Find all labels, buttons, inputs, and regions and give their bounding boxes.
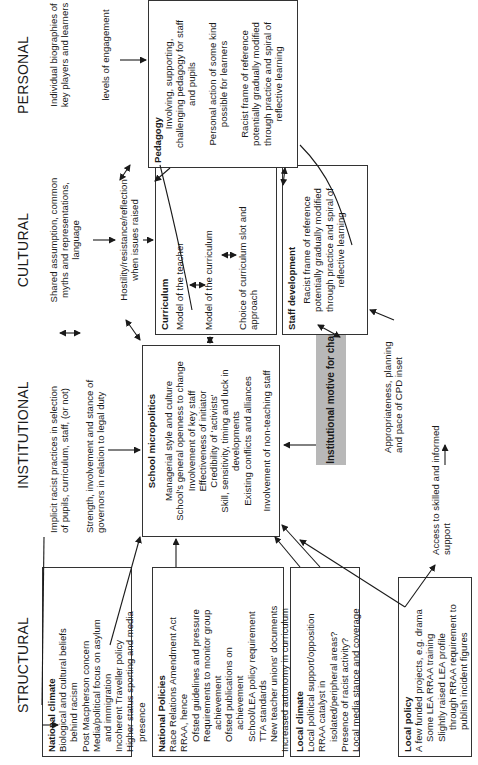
text-line: Hostility/resistance/reflection xyxy=(118,165,129,315)
text-line: Requirements to monitor group xyxy=(201,572,212,752)
text-line: Involvement of key staff xyxy=(186,350,197,532)
text-line: Post Macpherson concern xyxy=(80,572,91,752)
text-line: RRAA catalyst in xyxy=(316,572,327,752)
text-line: reflective learning xyxy=(335,170,346,330)
hostility-note: Hostility/resistance/reflection when iss… xyxy=(118,165,140,315)
local-policy-box: Local policy A few funded projects, e.g.… xyxy=(398,577,472,757)
text-line: developments xyxy=(230,350,241,532)
text-line: isolated/peripheral areas? xyxy=(328,572,339,752)
text-line: Local media stance and coverage xyxy=(350,572,361,752)
text-line: through practice and spiral of xyxy=(324,170,335,330)
heading-cultural: CULTURAL xyxy=(18,165,29,335)
governors-note: Strength, involvement and stance of gove… xyxy=(84,333,106,533)
diagram-canvas: STRUCTURAL INSTITUTIONAL CULTURAL PERSON… xyxy=(0,0,478,765)
national-policies-title: National Policies xyxy=(156,572,167,752)
text-line: Ofsted publications on xyxy=(223,572,234,752)
text-line: achievement xyxy=(234,572,245,752)
shared-assumptions-note: Shared assumption, common myths and repr… xyxy=(48,165,82,315)
engagement-note: levels of engagement xyxy=(100,0,111,115)
text-line: Access to skilled and informed xyxy=(430,385,441,555)
text-line: Higher status sporting and media xyxy=(124,572,135,752)
text-line: New teacher unions' documents xyxy=(268,572,279,752)
text-line: Strength, involvement and stance of xyxy=(84,333,95,533)
text-line: Implicit racist practices in selection xyxy=(48,333,59,533)
spacer xyxy=(253,350,261,532)
text-line: potentially gradually modified xyxy=(312,170,323,330)
staff-development-box: Staff development Racist frame of refere… xyxy=(282,165,368,335)
text-line: achievement xyxy=(212,572,223,752)
local-climate-box: Local climate Local political support/op… xyxy=(290,567,360,757)
text-line: Racist frame of reference xyxy=(301,170,312,330)
text-line: Appropriateness, planning xyxy=(382,293,393,453)
text-line: A few funded projects, e.g. drama xyxy=(413,582,424,752)
text-line: Choice of curriculum slot and xyxy=(237,170,248,330)
text-line: Biological and cultural beliefs xyxy=(57,572,68,752)
text-line: Involving, supporting, xyxy=(163,5,174,163)
school-micropolitics-title: School micropolitics xyxy=(146,350,157,532)
text-line: Some LEA RRAA training xyxy=(424,582,435,752)
text-line: Individual biographies of xyxy=(48,0,59,110)
text-line: reflective learning xyxy=(273,5,284,163)
text-line: TTA standards xyxy=(257,572,268,752)
support-access-note: Access to skilled and informed support xyxy=(430,385,452,555)
text-line: and immigration xyxy=(102,572,113,752)
text-line: Model of the teacher xyxy=(174,170,185,330)
text-line: language xyxy=(70,165,81,315)
local-climate-title: Local climate xyxy=(294,572,305,752)
national-climate-title: National climate xyxy=(46,572,57,752)
local-policy-title: Local policy xyxy=(402,582,413,752)
national-climate-box: National climate Biological and cultural… xyxy=(42,567,132,757)
heading-structural: STRUCTURAL xyxy=(18,575,29,755)
text-line: Incoherent Traveller policy xyxy=(113,572,124,752)
text-line: behind racism xyxy=(68,572,79,752)
text-line: School's general openness to change xyxy=(174,350,185,532)
text-line: myths and representations, xyxy=(59,165,70,315)
text-line: and pace of CPD inset xyxy=(393,293,404,453)
heading-institutional: INSTITUTIONAL xyxy=(18,345,29,525)
text-line: publish incident figures xyxy=(458,582,469,752)
school-micropolitics-box: School micropolitics Managerial style an… xyxy=(142,345,280,537)
text-line: when issues raised xyxy=(129,165,140,315)
text-line: Effectiveness of initiator xyxy=(197,350,208,532)
text-line: Presence of racist activity? xyxy=(339,572,350,752)
pedagogy-title: Pedagogy xyxy=(152,5,163,163)
text-line: Ofsted guidelines and pressure xyxy=(190,572,201,752)
biographies-note: Individual biographies of key players an… xyxy=(48,0,70,110)
text-line: through practice and spiral of xyxy=(262,5,273,163)
curriculum-box: Curriculum Model of the teacher Model of… xyxy=(155,165,277,335)
text-line: approach xyxy=(248,170,259,330)
text-line: presence xyxy=(136,572,147,752)
staff-development-title: Staff development xyxy=(286,170,297,330)
text-line: Skill, sensitivity, timing and luck in xyxy=(219,350,230,532)
implicit-practices-note: Implicit racist practices in selection o… xyxy=(48,333,70,533)
pedagogy-box: Pedagogy Involving, supporting, challeng… xyxy=(148,0,298,168)
text-line: Managerial style and culture xyxy=(163,350,174,532)
heading-personal: PERSONAL xyxy=(18,0,29,150)
curriculum-title: Curriculum xyxy=(159,170,170,330)
text-line: School/LEA policy requirement xyxy=(246,572,257,752)
text-line: challenging pedagogy for staff xyxy=(174,5,185,163)
text-line: Racist frame of reference xyxy=(239,5,250,163)
text-line: governors in relation to legal duty xyxy=(95,333,106,533)
text-line: Local political support/opposition xyxy=(305,572,316,752)
text-line: of pupils, curriculum, staff, (or not) xyxy=(59,333,70,533)
text-line: and pupils xyxy=(186,5,197,163)
text-line: Existing conflicts and alliances xyxy=(242,350,253,532)
cpd-inset-note: Appropriateness, planning and pace of CP… xyxy=(382,293,404,453)
text-line: Increased autonomy in curriculum xyxy=(279,572,290,752)
text-line: key players and learners xyxy=(59,0,70,110)
spacer xyxy=(197,5,207,163)
text-line: Credibility of 'activists' xyxy=(208,350,219,532)
text-line: support xyxy=(441,385,452,555)
text-line: Slightly raised LEA profile xyxy=(436,582,447,752)
text-line: RRAA, hence xyxy=(178,572,189,752)
institutional-motive-box: Institutional motive for change xyxy=(316,317,346,465)
text-line: Race Relations Amendment Act xyxy=(167,572,178,752)
text-line: potentially gradually modified xyxy=(250,5,261,163)
text-line: Personal action of some kind xyxy=(207,5,218,163)
text-line: through RRAA requirement to xyxy=(447,582,458,752)
national-policies-box: National Policies Race Relations Amendme… xyxy=(152,567,284,757)
text-line: Media/political focus on asylum xyxy=(91,572,102,752)
spacer xyxy=(229,5,239,163)
text-line: possible for learners xyxy=(218,5,229,163)
